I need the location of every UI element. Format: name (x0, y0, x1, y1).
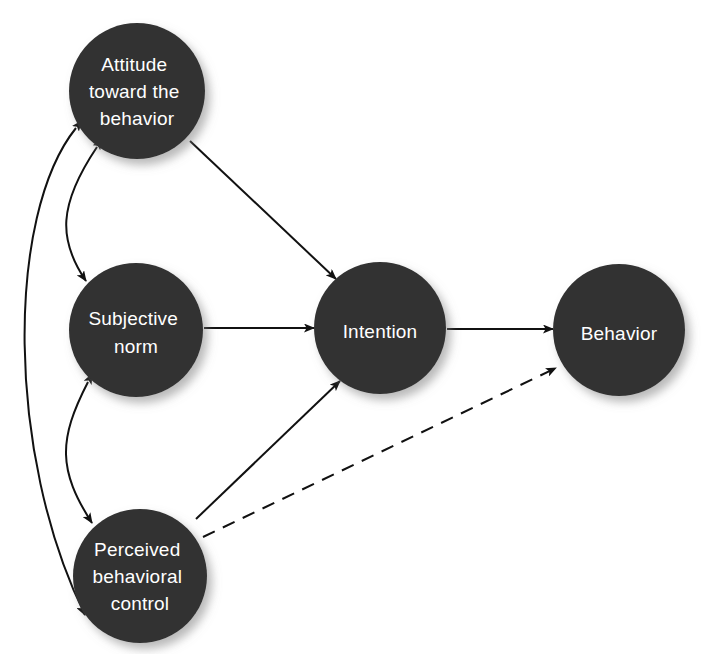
node-intention-label: Intention (343, 321, 418, 342)
edge-attitude-perceived-behavioral-control (25, 128, 85, 615)
node-behavior-label: Behavior (581, 323, 658, 344)
node-behavior[interactable]: Behavior (553, 264, 685, 396)
theory-of-planned-behavior-diagram: Behavior (dashed, under Intention) --> I… (0, 0, 713, 654)
diagram-canvas: Behavior (dashed, under Intention) --> I… (0, 0, 713, 654)
node-subjective-norm[interactable]: Subjective norm (69, 263, 203, 397)
node-intention[interactable]: Intention (314, 262, 446, 394)
node-subjective-norm-circle[interactable] (69, 263, 203, 397)
node-layer: Attitude toward the behavior Subjective … (69, 23, 685, 643)
node-perceived-behavioral-control[interactable]: Perceived behavioral control (73, 509, 207, 643)
edge-attitude-subjective-norm (66, 147, 97, 281)
edge-perceived-behavioral-control-intention (196, 381, 340, 519)
node-attitude[interactable]: Attitude toward the behavior (69, 23, 205, 159)
edge-attitude-intention (190, 141, 336, 279)
edge-subjective-norm-perceived-behavioral-control (66, 382, 92, 523)
node-attitude-label: Attitude toward the behavior (89, 54, 185, 129)
